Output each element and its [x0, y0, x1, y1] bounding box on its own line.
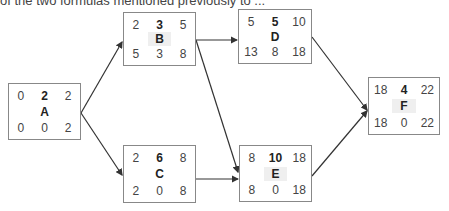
slack: 0 — [33, 121, 57, 135]
early-finish: 5 — [171, 18, 195, 32]
arrow-e-f — [312, 111, 367, 176]
activity-node-f: 18 4 22 F 18 0 22 — [368, 77, 440, 135]
slack: 3 — [148, 47, 172, 61]
early-finish: 2 — [56, 89, 80, 103]
duration: 3 — [148, 18, 172, 32]
arrow-a-c — [81, 113, 122, 175]
slack: 0 — [148, 184, 172, 198]
early-start: 8 — [240, 151, 264, 165]
activity-name: B — [148, 32, 172, 46]
arrow-b-e — [196, 40, 238, 172]
early-start: 18 — [369, 83, 392, 97]
activity-node-d: 5 5 10 D 13 8 18 — [238, 9, 312, 64]
early-finish: 18 — [287, 151, 311, 165]
activity-name: F — [392, 99, 415, 113]
duration: 4 — [392, 83, 415, 97]
late-finish: 18 — [287, 183, 311, 197]
late-finish: 22 — [416, 116, 439, 130]
late-start: 0 — [9, 121, 33, 135]
late-finish: 8 — [171, 184, 195, 198]
activity-node-b: 2 3 5 B 5 3 8 — [123, 12, 196, 66]
activity-name: E — [264, 167, 288, 181]
activity-node-a: 0 2 2 A 0 0 2 — [8, 83, 81, 140]
duration: 10 — [264, 151, 288, 165]
activity-node-c: 2 6 8 C 2 0 8 — [123, 145, 196, 203]
early-start: 2 — [124, 18, 148, 32]
activity-name: C — [148, 167, 172, 181]
late-start: 2 — [124, 184, 148, 198]
early-start: 2 — [124, 151, 148, 165]
late-finish: 2 — [56, 121, 80, 135]
arrow-a-b — [81, 42, 122, 113]
activity-name: D — [263, 30, 287, 44]
early-start: 5 — [239, 15, 263, 29]
arrow-d-f — [312, 37, 367, 110]
slack: 8 — [263, 45, 287, 59]
early-start: 0 — [9, 89, 33, 103]
late-start: 13 — [239, 45, 263, 59]
late-start: 18 — [369, 116, 392, 130]
late-start: 8 — [240, 183, 264, 197]
activity-node-e: 8 10 18 E 8 0 18 — [239, 145, 312, 202]
slack: 0 — [264, 183, 288, 197]
duration: 5 — [263, 15, 287, 29]
early-finish: 8 — [171, 151, 195, 165]
late-finish: 8 — [171, 47, 195, 61]
duration: 6 — [148, 151, 172, 165]
early-finish: 22 — [416, 83, 439, 97]
late-finish: 18 — [287, 45, 311, 59]
early-finish: 10 — [287, 15, 311, 29]
slack: 0 — [392, 116, 415, 130]
late-start: 5 — [124, 47, 148, 61]
duration: 2 — [33, 89, 57, 103]
activity-name: A — [33, 105, 57, 119]
